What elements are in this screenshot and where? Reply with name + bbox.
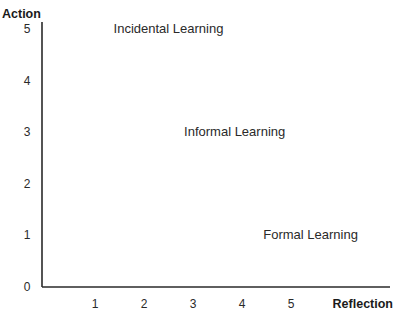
x-tick-label: 4 — [239, 297, 246, 311]
x-tick-label: 2 — [141, 297, 148, 311]
chart: Action Reflection 012345 12345 Incidenta… — [0, 0, 395, 314]
annotation-label: Incidental Learning — [114, 21, 224, 36]
y-tick-label: 5 — [24, 22, 31, 36]
annotation-label: Formal Learning — [263, 227, 358, 242]
x-tick-labels: 12345 — [92, 297, 295, 311]
x-axis-title: Reflection — [333, 297, 393, 311]
y-tick-label: 0 — [24, 280, 31, 294]
x-tick-label: 5 — [288, 297, 295, 311]
x-tick-label: 3 — [190, 297, 197, 311]
annotations: Incidental LearningInformal LearningForm… — [114, 21, 358, 242]
annotation-label: Informal Learning — [184, 124, 285, 139]
y-tick-label: 4 — [24, 74, 31, 88]
y-axis-title: Action — [2, 7, 41, 21]
y-tick-label: 1 — [24, 228, 31, 242]
y-tick-labels: 012345 — [24, 22, 31, 294]
x-tick-label: 1 — [92, 297, 99, 311]
y-tick-label: 3 — [24, 125, 31, 139]
y-tick-label: 2 — [24, 177, 31, 191]
